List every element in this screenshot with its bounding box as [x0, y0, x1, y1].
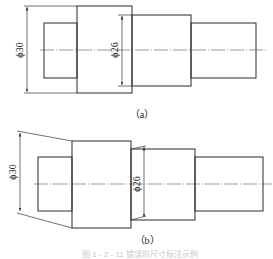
dimension-label-phi30-b: ϕ30 — [7, 164, 18, 179]
figure-a: ϕ30 ϕ26 （a） — [14, 6, 266, 120]
shaft-collar-a — [77, 6, 132, 93]
figure-footer-caption: 图 1 - 2 - 11 错误的尺寸标注示例 — [82, 249, 198, 259]
extension-line-bottom-b — [17, 213, 72, 228]
shaft-middle-step-a — [132, 15, 191, 86]
dimension-label-phi26-a: ϕ26 — [109, 42, 120, 57]
extension-line-top-b — [17, 131, 72, 141]
dimension-label-phi26-b: ϕ26 — [131, 176, 142, 191]
caption-a: （a） — [130, 109, 154, 120]
technical-drawing: ϕ30 ϕ26 （a） ϕ30 ϕ26 （b） 图 1 - 2 - 11 错误的… — [0, 0, 273, 259]
dimension-label-phi30-a: ϕ30 — [14, 42, 25, 57]
shaft-left-step-a — [44, 23, 77, 78]
shaft-right-step-a — [191, 23, 256, 78]
caption-b: （b） — [135, 235, 160, 246]
shaft-collar-b — [72, 141, 131, 228]
figure-b: ϕ30 ϕ26 （b） — [7, 131, 272, 246]
